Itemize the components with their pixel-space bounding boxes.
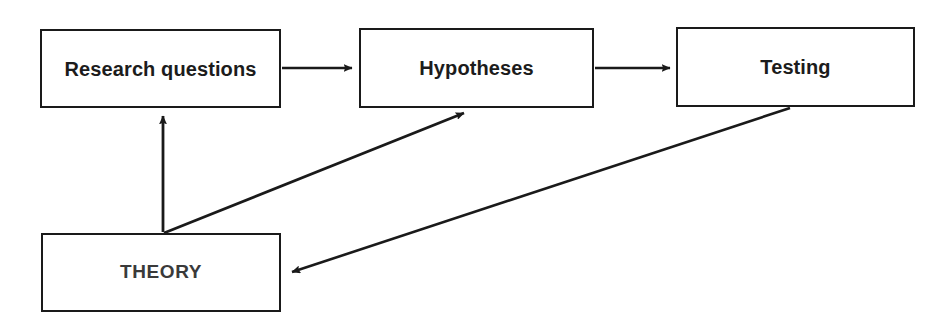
node-testing-label: Testing [760,56,830,78]
diagram-canvas: Research questions Hypotheses Testing TH… [0,0,948,331]
node-hypotheses-label: Hypotheses [419,57,533,79]
node-hypotheses[interactable]: Hypotheses [359,28,594,108]
edge-testing-to-theory [292,108,790,272]
node-theory[interactable]: THEORY [41,233,281,312]
node-research-questions-label: Research questions [65,58,257,80]
node-theory-label: THEORY [120,262,202,283]
node-testing[interactable]: Testing [676,27,915,107]
edge-theory-to-hypotheses [164,113,464,233]
node-research-questions[interactable]: Research questions [40,29,281,108]
